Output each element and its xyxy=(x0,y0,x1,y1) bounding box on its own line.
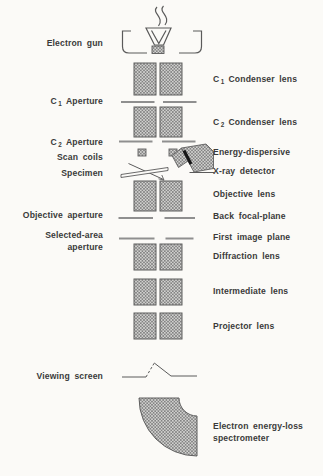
label-edx-line1: Energy-dispersive xyxy=(213,148,290,157)
label-c1-condenser-symbol: C xyxy=(213,74,219,84)
intermediate-lens-icon xyxy=(134,279,182,305)
label-objective-lens: Objective lens xyxy=(213,190,275,199)
gun-filament-wisp-right xyxy=(162,6,167,25)
label-electron-gun: Electron gun xyxy=(47,39,103,48)
label-scan-coils: Scan coils xyxy=(57,153,103,162)
label-c2-aperture-word: Aperture xyxy=(66,137,103,147)
tem-column-diagram: Electron gun C1Aperture C2Aperture Scan … xyxy=(0,0,323,476)
objective-lens-block-left xyxy=(134,181,156,211)
label-c1-condenser-word: Condenser lens xyxy=(229,74,298,84)
gun-cathode-block xyxy=(152,46,164,54)
label-eels-line1: Electron energy-loss xyxy=(213,422,303,431)
intermediate-lens-block-left xyxy=(134,279,156,305)
edx-detector-icon xyxy=(172,144,214,173)
label-c2-condenser-symbol: C xyxy=(213,117,219,127)
subscript-1: 1 xyxy=(221,78,225,85)
label-viewing-screen: Viewing screen xyxy=(36,372,103,381)
specimen-icon xyxy=(121,164,168,181)
subscript-2: 2 xyxy=(58,141,62,148)
scan-coils-icon xyxy=(138,149,177,156)
gun-filament-wisp-left xyxy=(155,7,160,26)
label-specimen: Specimen xyxy=(61,169,103,178)
projector-lens-block-left xyxy=(134,313,156,339)
electron-gun-icon xyxy=(123,6,202,54)
c2-lens-block-left xyxy=(134,107,156,137)
label-c2-condenser-lens: C2Condenser lens xyxy=(213,118,297,129)
label-c1-aperture-word: Aperture xyxy=(66,96,103,106)
projector-lens-icon xyxy=(134,313,182,339)
objective-lens-icon xyxy=(134,181,182,211)
subscript-1: 1 xyxy=(58,100,62,107)
label-back-focal-plane: Back focal-plane xyxy=(213,212,286,221)
label-edx-line2: X-ray detector xyxy=(213,167,275,176)
diffraction-lens-block-right xyxy=(160,244,182,270)
label-first-image-plane: First image plane xyxy=(213,233,290,242)
subscript-2: 2 xyxy=(221,121,225,128)
label-objective-aperture: Objective aperture xyxy=(23,211,103,220)
projector-lens-block-right xyxy=(160,313,182,339)
label-c2-aperture: C2Aperture xyxy=(50,138,103,149)
objective-lens-block-right xyxy=(160,181,182,211)
diffraction-lens-icon xyxy=(134,244,182,270)
label-c1-aperture-symbol: C xyxy=(50,96,56,106)
gun-bracket-right xyxy=(179,31,202,53)
c1-lens-block-left xyxy=(134,63,156,95)
c2-condenser-lens-icon xyxy=(134,107,182,137)
label-c1-aperture: C1Aperture xyxy=(50,97,103,108)
label-projector-lens: Projector lens xyxy=(213,322,274,331)
label-c2-condenser-word: Condenser lens xyxy=(229,117,298,127)
c1-condenser-lens-icon xyxy=(134,63,182,95)
specimen-holder-plate xyxy=(121,168,168,178)
eels-spectrometer-icon xyxy=(139,398,197,456)
viewing-screen-icon xyxy=(122,363,197,377)
diffraction-lens-block-left xyxy=(134,244,156,270)
label-selected-area-aperture-line2: aperture xyxy=(67,243,103,252)
label-selected-area-aperture-line1: Selected-area xyxy=(45,231,103,240)
screen-flap-solid xyxy=(154,363,171,376)
gun-bracket-left xyxy=(123,31,148,53)
c1-lens-block-right xyxy=(160,63,182,95)
screen-flap-dashed xyxy=(146,363,154,377)
eels-prism-sector xyxy=(139,398,197,456)
label-diffraction-lens: Diffraction lens xyxy=(213,252,280,261)
label-eels-line2: spectrometer xyxy=(213,434,269,443)
label-c2-aperture-symbol: C xyxy=(50,137,56,147)
c2-lens-block-right xyxy=(160,107,182,137)
scan-coil-left xyxy=(138,149,146,156)
label-c1-condenser-lens: C1Condenser lens xyxy=(213,75,297,86)
intermediate-lens-block-right xyxy=(160,279,182,305)
label-intermediate-lens: Intermediate lens xyxy=(213,287,288,296)
